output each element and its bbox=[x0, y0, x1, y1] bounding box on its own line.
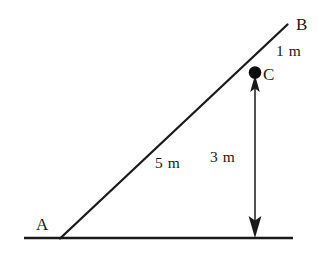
diagram-svg bbox=[0, 0, 329, 263]
dimension-label-height: 3 m bbox=[210, 149, 235, 165]
diagram-canvas: B A C 5 m 1 m 3 m bbox=[0, 0, 329, 263]
dimension-label-ac: 5 m bbox=[155, 155, 180, 171]
point-label-c: C bbox=[263, 66, 275, 83]
point-label-a: A bbox=[36, 216, 48, 233]
point-label-b: B bbox=[296, 16, 308, 33]
dimension-label-cb: 1 m bbox=[276, 43, 301, 59]
incline-line-ab bbox=[60, 25, 288, 239]
point-c-dot bbox=[249, 66, 262, 79]
